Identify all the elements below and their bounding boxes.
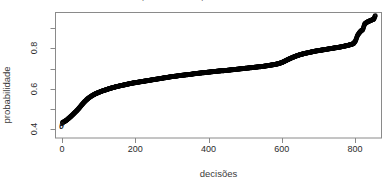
y-axis-tick-label: 0.8 <box>27 41 53 55</box>
y-axis-tick-label: 0.4 <box>27 122 53 136</box>
x-axis-title: decisões <box>55 168 382 179</box>
x-axis-tick-label: 200 <box>115 144 155 154</box>
x-axis-tick-label: 800 <box>335 144 375 154</box>
y-axis-title: probabilidade <box>0 0 14 190</box>
chart-figure: probabilidade por decisao θ probabilidad… <box>0 0 392 190</box>
x-axis-tick-label: 0 <box>42 144 82 154</box>
x-axis-tick-label: 400 <box>189 144 229 154</box>
plot-canvas <box>0 0 392 190</box>
y-axis-tick-label: 0.6 <box>27 82 53 96</box>
x-axis-ticks <box>63 138 356 143</box>
plot-frame <box>56 13 382 139</box>
x-axis-tick-label: 600 <box>262 144 302 154</box>
panel-border <box>56 13 382 139</box>
data-point-series <box>61 14 378 125</box>
theta-annotation: θ <box>59 122 64 131</box>
